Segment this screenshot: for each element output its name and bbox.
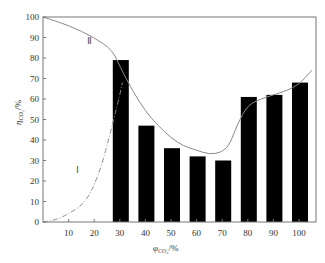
y-tick-label: 50 xyxy=(30,115,40,125)
bar-50 xyxy=(164,148,180,222)
bar-90 xyxy=(266,95,282,222)
bar-100 xyxy=(292,83,308,222)
bar-60 xyxy=(190,156,206,222)
y-tick-label: 30 xyxy=(30,156,40,166)
bar-30 xyxy=(113,60,129,222)
x-tick-label: 10 xyxy=(64,228,74,238)
y-tick-label: 80 xyxy=(30,53,40,63)
y-tick-label: 20 xyxy=(30,176,40,186)
bar-80 xyxy=(241,97,257,222)
y-tick-label: 100 xyxy=(26,12,40,22)
x-tick-label: 60 xyxy=(192,228,202,238)
x-tick-label: 50 xyxy=(167,228,177,238)
x-axis-label: φCO₂/% xyxy=(153,243,179,254)
curve-boundary-I xyxy=(43,83,122,222)
x-tick-label: 100 xyxy=(292,228,306,238)
chart: 0102030405060708090100 10203040506070809… xyxy=(0,0,325,263)
x-tick-label: 90 xyxy=(269,228,279,238)
y-axis-label: ηCO₂/% xyxy=(13,100,24,125)
x-tick-label: 20 xyxy=(90,228,100,238)
region-label-II: Ⅱ xyxy=(87,35,92,46)
bars xyxy=(113,60,308,222)
y-tick-label: 60 xyxy=(30,94,40,104)
y-tick-label: 90 xyxy=(30,33,40,43)
y-tick-label: 0 xyxy=(35,217,40,227)
x-tick-label: 40 xyxy=(141,228,151,238)
bar-70 xyxy=(215,161,231,223)
y-tick-label: 40 xyxy=(30,135,40,145)
x-tick-label: 80 xyxy=(243,228,253,238)
bar-40 xyxy=(138,126,154,222)
y-tick-label: 10 xyxy=(30,197,40,207)
region-label-I: Ⅰ xyxy=(76,164,79,175)
x-tick-label: 70 xyxy=(218,228,228,238)
x-tick-label: 30 xyxy=(115,228,125,238)
y-tick-label: 70 xyxy=(30,74,40,84)
